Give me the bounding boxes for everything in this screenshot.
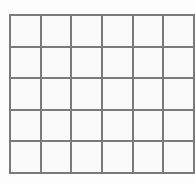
grid-cell[interactable] [163, 141, 194, 173]
grid-cell[interactable] [41, 78, 72, 110]
grid-cell[interactable] [10, 15, 41, 47]
grid-cell[interactable] [10, 141, 41, 173]
grid-cell[interactable] [71, 110, 102, 142]
grid-cell[interactable] [163, 15, 194, 47]
grid-cell[interactable] [10, 78, 41, 110]
grid-cell[interactable] [102, 47, 133, 79]
grid-cell[interactable] [102, 110, 133, 142]
grid-row [10, 47, 194, 79]
grid-cell[interactable] [10, 110, 41, 142]
grid-cell[interactable] [102, 15, 133, 47]
grid-row [10, 110, 194, 142]
grid-cell[interactable] [163, 78, 194, 110]
grid-cell[interactable] [133, 47, 164, 79]
grid-cell[interactable] [133, 141, 164, 173]
grid-cell[interactable] [41, 15, 72, 47]
grid-row [10, 78, 194, 110]
grid-cell[interactable] [133, 78, 164, 110]
grid-cell[interactable] [71, 78, 102, 110]
grid-cell[interactable] [10, 47, 41, 79]
grid-cell[interactable] [133, 110, 164, 142]
grid-cell[interactable] [71, 15, 102, 47]
grid-cell[interactable] [133, 15, 164, 47]
grid-row [10, 141, 194, 173]
grid-cell[interactable] [41, 47, 72, 79]
empty-grid-table [9, 14, 195, 174]
grid-cell[interactable] [102, 78, 133, 110]
grid-cell[interactable] [71, 47, 102, 79]
grid-cell[interactable] [41, 141, 72, 173]
grid-cell[interactable] [41, 110, 72, 142]
grid-row [10, 15, 194, 47]
canvas [0, 0, 195, 184]
grid-cell[interactable] [163, 47, 194, 79]
grid-cell[interactable] [163, 110, 194, 142]
grid-cell[interactable] [102, 141, 133, 173]
grid-cell[interactable] [71, 141, 102, 173]
